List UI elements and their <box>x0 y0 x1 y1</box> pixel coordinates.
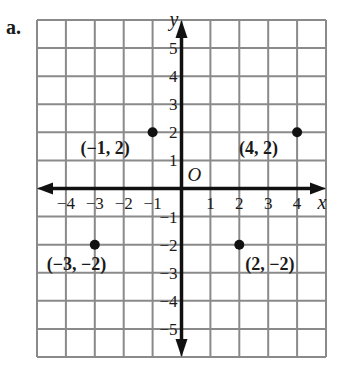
point-label: (2, −2) <box>245 254 294 275</box>
y-axis-label: y <box>168 8 179 31</box>
y-tick-label: −5 <box>159 320 177 339</box>
y-tick-label: −1 <box>159 208 177 227</box>
point-label: (4, 2) <box>239 138 278 159</box>
y-tick-label: −3 <box>159 264 177 283</box>
y-axis-down-arrow-icon <box>176 339 188 357</box>
y-tick-label: 4 <box>169 67 178 86</box>
y-tick-label: 2 <box>169 123 178 142</box>
origin-label: O <box>188 164 202 185</box>
data-point <box>234 240 244 250</box>
x-axis-label: x <box>317 191 327 213</box>
point-label: (−3, −2) <box>47 254 107 275</box>
y-tick-label: 5 <box>169 39 178 58</box>
x-tick-label: 4 <box>293 194 302 213</box>
x-tick-label: 2 <box>235 194 244 213</box>
y-tick-label: −4 <box>159 292 178 311</box>
data-point <box>90 240 100 250</box>
x-tick-label: −4 <box>57 194 76 213</box>
tick-labels: −4−3−2−1123454321−1−2−3−4−5xyO <box>57 8 327 339</box>
data-point <box>292 127 302 137</box>
x-axis-left-arrow-icon <box>37 183 53 195</box>
point-label: (−1, 2) <box>81 138 130 159</box>
y-tick-label: 3 <box>169 95 178 114</box>
data-point <box>148 127 158 137</box>
y-tick-label: −2 <box>159 236 177 255</box>
x-tick-label: 3 <box>264 194 273 213</box>
x-tick-label: −2 <box>115 194 133 213</box>
y-tick-label: 1 <box>169 151 178 170</box>
coordinate-plane: −4−3−2−1123454321−1−2−3−4−5xyO (−1, 2)(4… <box>0 0 344 370</box>
x-tick-label: 1 <box>206 194 215 213</box>
x-tick-label: −3 <box>86 194 104 213</box>
axes <box>37 20 326 357</box>
